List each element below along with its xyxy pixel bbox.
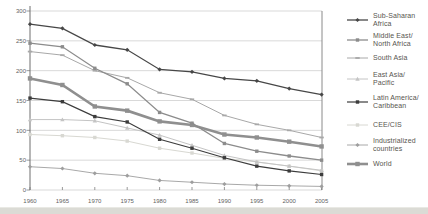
legend-item-east-asia-pacific: East Asia/Pacific xyxy=(347,71,405,86)
svg-text:100: 100 xyxy=(16,128,27,134)
legend-item-world: World xyxy=(347,159,392,169)
legend-item-industrialized-countries: Industrializedcountries xyxy=(347,137,416,152)
legend-item-middle-east-north-africa: Middle East/North Africa xyxy=(347,32,413,47)
svg-text:2000: 2000 xyxy=(283,198,297,204)
legend-label: Industrializedcountries xyxy=(373,137,416,152)
legend-label: Latin America/Caribbean xyxy=(373,94,419,109)
svg-text:1990: 1990 xyxy=(218,198,232,204)
svg-text:50: 50 xyxy=(19,157,26,163)
legend-swatch-icon xyxy=(347,15,369,25)
svg-text:1985: 1985 xyxy=(185,198,199,204)
legend-swatch-icon xyxy=(347,120,369,130)
svg-text:200: 200 xyxy=(16,68,27,74)
svg-text:300: 300 xyxy=(16,8,27,14)
legend-swatch-icon xyxy=(347,53,369,63)
legend-label: Middle East/North Africa xyxy=(373,32,413,47)
svg-text:1970: 1970 xyxy=(88,198,102,204)
legend-label: World xyxy=(373,160,392,168)
legend-item-sub-saharan-africa: Sub-SaharanAfrica xyxy=(347,12,415,27)
svg-text:1975: 1975 xyxy=(121,198,135,204)
legend-swatch-icon xyxy=(347,74,369,84)
svg-text:150: 150 xyxy=(16,98,27,104)
legend-label: CEE/CIS xyxy=(373,121,402,129)
legend-label: Sub-SaharanAfrica xyxy=(373,12,415,27)
legend-swatch-icon xyxy=(347,140,369,150)
legend-swatch-icon xyxy=(347,35,369,45)
series-world xyxy=(28,76,324,148)
svg-text:1995: 1995 xyxy=(250,198,264,204)
legend-label: South Asia xyxy=(373,54,407,62)
svg-text:1980: 1980 xyxy=(153,198,167,204)
svg-text:250: 250 xyxy=(16,38,27,44)
chart-legend: Sub-SaharanAfricaMiddle East/North Afric… xyxy=(345,0,428,200)
svg-text:2005: 2005 xyxy=(315,198,329,204)
series-industrialized-countries xyxy=(28,165,324,189)
legend-label: East Asia/Pacific xyxy=(373,71,405,86)
chart-panel: 0501001502002503001960196519701975198019… xyxy=(0,0,428,214)
series-south-asia xyxy=(28,51,324,139)
legend-swatch-icon xyxy=(347,97,369,107)
series-east-asia-pacific xyxy=(28,117,324,172)
legend-item-cee-cis: CEE/CIS xyxy=(347,120,402,130)
legend-swatch-icon xyxy=(347,159,369,169)
legend-item-latin-america-caribbean: Latin America/Caribbean xyxy=(347,94,419,109)
page-edge-band xyxy=(0,207,428,214)
svg-text:0: 0 xyxy=(23,187,27,193)
svg-text:1965: 1965 xyxy=(56,198,70,204)
legend-item-south-asia: South Asia xyxy=(347,53,407,63)
svg-text:1960: 1960 xyxy=(23,198,37,204)
series-cee-cis xyxy=(28,133,323,173)
